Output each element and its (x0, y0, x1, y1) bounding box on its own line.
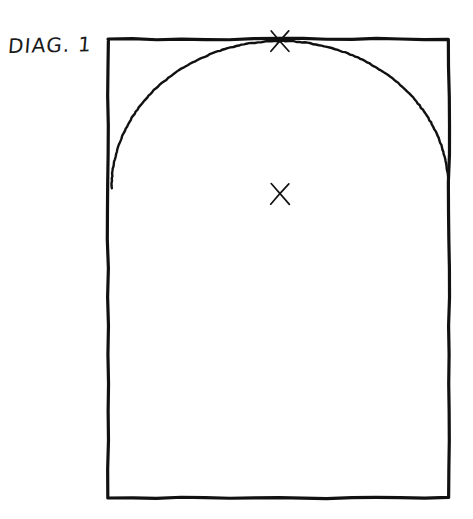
outer-rectangle (107, 38, 449, 498)
x-marks-group (271, 31, 290, 204)
x-mark-center (271, 184, 290, 205)
diagram-canvas (0, 0, 473, 519)
arch-curve (112, 41, 449, 189)
